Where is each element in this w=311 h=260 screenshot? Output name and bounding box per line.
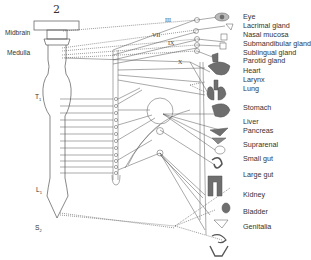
organ-label-suprarenal: Suprarenal [243,141,278,148]
organ-label-pancreas: Pancreas [243,127,273,134]
spinal-cord [43,45,71,218]
midbrain-block [47,30,67,39]
label-l1: L1 [36,187,42,195]
label-s2: S2 [35,225,42,233]
organ-label-larynx: Larynx [243,76,265,83]
label-nerve-ix: IX [168,40,174,46]
organ-label-eye: Eye [243,13,255,20]
label-t1: T1 [35,94,41,102]
label-nerve-iii: III [165,17,171,23]
medulla-block [44,39,70,45]
brain-block [34,21,79,30]
figure-number: 2 [53,3,60,16]
l1-sub: 1 [40,190,42,195]
label-nerve-vii: VII [152,32,160,38]
organ-label-stomach: Stomach [243,104,271,111]
label-nerve-x: X [178,59,182,65]
autonomic-nervous-system-diagram: 2 Midbrain Medulla T1 L1 S2 III VII IX X… [0,0,311,260]
organ-label-submandibular-gland: Submandibular gland [243,40,311,47]
organ-label-lung: Lung [243,85,259,92]
organ-label-large-gut: Large gut [243,171,273,178]
organ-label-bladder: Bladder [243,208,268,215]
superior-mesenteric-ganglion [157,128,164,135]
organ-label-nasal-mucosa: Nasal mucosa [243,31,289,38]
organ-label-heart: Heart [243,67,261,74]
t1-sub: 1 [39,97,41,102]
organ-label-genitalia: Genitalia [243,223,271,230]
label-midbrain: Midbrain [5,30,30,37]
organ-label-parotid-gland: Parotid gland [243,57,285,64]
organ-label-kidney: Kidney [243,191,265,198]
organ-label-lacrimal-gland: Lacrimal gland [243,22,290,29]
organ-label-small-gut: Small gut [243,155,273,162]
s2-sub: 2 [39,228,41,233]
organ-label-liver: Liver [243,118,259,125]
label-medulla: Medulla [7,50,30,57]
celiac-ganglion [147,98,173,124]
